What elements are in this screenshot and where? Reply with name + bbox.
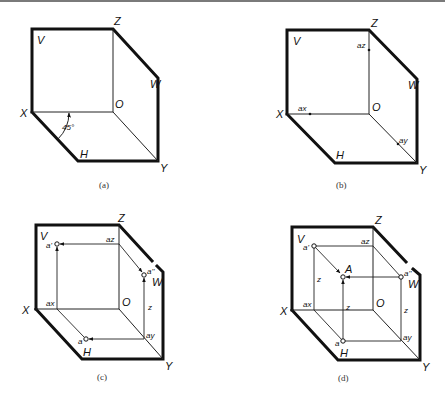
label-z: Z xyxy=(117,212,126,224)
label-y: Y xyxy=(165,360,173,372)
caption-a: (a) xyxy=(99,180,109,190)
point-az xyxy=(368,49,371,52)
figure-b: V Z W X O H Y ax az ay (b) xyxy=(275,17,427,190)
label-o: O xyxy=(122,296,131,308)
label-z-distance: z xyxy=(147,303,152,312)
label-h: H xyxy=(83,346,91,358)
label-w: W xyxy=(152,276,164,288)
point-a xyxy=(84,337,88,341)
axis-oy xyxy=(113,112,158,161)
caption-b: (b) xyxy=(336,180,347,190)
label-ay: ay xyxy=(403,333,412,342)
label-w: W xyxy=(408,278,420,290)
outer-frame xyxy=(32,29,158,161)
figure-a: 45° V Z W X O H Y (a) xyxy=(19,15,168,190)
label-z: Z xyxy=(374,214,383,226)
label-a-prime: a' xyxy=(303,243,309,252)
label-v: V xyxy=(293,35,302,47)
label-a-double-prime: a'' xyxy=(404,269,412,278)
label-y: Y xyxy=(419,164,427,176)
outer-frame-upper xyxy=(36,225,152,309)
label-o: O xyxy=(372,101,381,113)
figure-c: V Z W X O H Y a' a'' az ax ay a z (c) xyxy=(21,212,173,382)
axis-oy xyxy=(373,310,420,360)
label-o: O xyxy=(376,297,385,309)
caption-c: (c) xyxy=(97,372,107,382)
label-z-right: z xyxy=(403,306,408,315)
label-h: H xyxy=(336,149,344,161)
figure-d: V Z W X O H Y A a' a'' az ax ay a z z z … xyxy=(279,214,430,383)
point-ax xyxy=(309,113,312,116)
label-ay: ay xyxy=(399,136,408,145)
label-o: O xyxy=(115,98,124,110)
proj-a-prime-to-A xyxy=(314,246,340,273)
label-z-left: z xyxy=(316,275,321,284)
axis-oy xyxy=(119,309,163,359)
label-z: Z xyxy=(370,17,379,29)
projection-diagrams: 45° V Z W X O H Y (a) V Z W X O H Y ax a… xyxy=(0,0,445,398)
label-x: X xyxy=(21,304,30,316)
label-h: H xyxy=(340,347,348,359)
point-a xyxy=(341,339,345,343)
label-v: V xyxy=(37,34,46,46)
label-y: Y xyxy=(160,162,168,174)
label-a-double-prime: a'' xyxy=(147,267,155,276)
label-a-prime: a' xyxy=(46,241,52,250)
label-ax: ax xyxy=(298,104,307,113)
label-a: a xyxy=(335,339,340,348)
label-A: A xyxy=(344,263,352,275)
label-h: H xyxy=(80,148,88,160)
label-ax: ax xyxy=(46,299,55,308)
label-z-center: z xyxy=(345,303,350,312)
label-x: X xyxy=(275,108,284,120)
caption-d: (d) xyxy=(338,373,349,383)
label-w: W xyxy=(150,78,162,90)
point-a-double-prime xyxy=(399,275,403,279)
label-x: X xyxy=(19,107,28,119)
label-ay: ay xyxy=(146,331,155,340)
point-a-prime xyxy=(55,242,59,246)
point-a-double-prime xyxy=(142,273,146,277)
label-w: W xyxy=(408,79,420,91)
point-a-prime xyxy=(312,244,316,248)
label-az: az xyxy=(357,41,365,50)
label-ax: ax xyxy=(303,300,312,309)
edge-ax-a xyxy=(314,310,343,341)
axis-oy xyxy=(369,114,417,163)
label-az: az xyxy=(106,235,114,244)
label-a: a xyxy=(78,337,83,346)
label-y: Y xyxy=(422,361,430,373)
label-z: Z xyxy=(113,15,122,27)
proj-ax-to-a xyxy=(57,309,84,337)
label-x: X xyxy=(279,305,288,317)
label-az: az xyxy=(361,237,369,246)
angle-label: 45° xyxy=(62,123,75,132)
point-A xyxy=(341,275,345,279)
